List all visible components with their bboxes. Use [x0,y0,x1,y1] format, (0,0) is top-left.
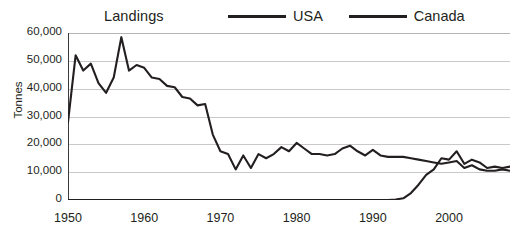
y-tick-label: 40,000 [4,81,62,93]
y-tick-label: 60,000 [4,25,62,37]
legend-label-canada: Canada [414,8,465,24]
x-tick-label: 1970 [190,211,250,225]
chart-title: Landings [104,8,164,24]
legend-item-canada: Canada [349,8,465,24]
y-axis-title: Tonnes [12,65,24,135]
x-tick-label: 1950 [38,211,98,225]
x-tick-label: 1990 [343,211,403,225]
y-tick-label: 10,000 [4,164,62,176]
legend-label-usa: USA [293,8,323,24]
legend-item-usa: USA [228,8,323,24]
y-tick-label: 50,000 [4,53,62,65]
y-tick-label: 0 [4,192,62,204]
chart-header: Landings USA Canada [0,0,522,30]
x-tick-label: 1980 [267,211,327,225]
landings-chart: Landings USA Canada Tonnes 60,00050,0004… [0,0,522,249]
plot-svg [68,33,510,200]
series-line-usa [68,37,510,171]
x-tick-label: 2000 [419,211,479,225]
series-line-canada [68,151,510,200]
y-tick-label: 20,000 [4,136,62,148]
legend-line-usa-icon [228,15,286,18]
plot-area [68,33,510,200]
y-tick-label: 30,000 [4,109,62,121]
chart-legend: USA Canada [228,8,465,24]
x-tick-label: 1960 [114,211,174,225]
legend-line-canada-icon [349,15,407,18]
